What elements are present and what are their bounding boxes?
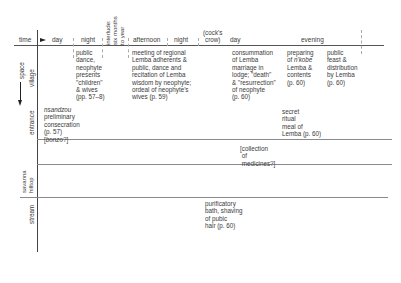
event-village-afternoon: meeting of regional Lemba adherents & pu… [132, 49, 191, 101]
event-village-day2: consummation of Lemba marriage in lodge;… [232, 49, 276, 101]
time-arrow-icon [40, 38, 46, 42]
col-header-day: day [52, 36, 62, 43]
col-header-interlude: interlude: six months to year [105, 16, 125, 45]
col-header-evening: evening [301, 36, 324, 43]
event-entrance-day: nsandzou preliminary consecration (p. 57… [44, 106, 80, 143]
row-label-savanna-hilltop: savanna hilltop [21, 170, 35, 193]
event-village-night: public dance, neophyte presents "childre… [76, 49, 105, 101]
col-divider [198, 38, 199, 46]
event-stream-day2: purificatory bath, shaving of pubic hair… [205, 200, 242, 230]
row-divider-entrance-hilltop [37, 164, 392, 165]
event-text-italic: nsandzou [44, 106, 80, 113]
event-village-evening-nkobe: preparing of n'kobe Lemba & contents (p.… [287, 49, 314, 86]
col-divider [361, 30, 362, 54]
event-text: preliminary consecration (p. 57) [44, 113, 80, 135]
col-divider [128, 38, 129, 58]
col-divider [73, 38, 74, 58]
time-axis-line [14, 45, 384, 46]
event-text: Lemba & contents (p. 60) [287, 64, 312, 86]
row-divider-hilltop-stream [20, 197, 388, 198]
col-header-afternoon: afternoon [133, 36, 160, 43]
event-hilltop-day2: [collection of medicines?] [240, 145, 275, 167]
row-divider-village-entrance [37, 139, 392, 140]
time-axis-label: time [19, 36, 31, 43]
nsandzou-term: nsandzou [44, 106, 71, 113]
event-text-italic: n'kobe [294, 56, 312, 63]
col-header-cocks-crow: (cock's crow) [203, 29, 222, 44]
event-text-bonzo: [bonzo?] [44, 136, 80, 143]
row-label-stream: stream [28, 205, 35, 224]
row-label-village: village [28, 69, 35, 87]
event-entrance-evening: secret ritual meal of Lemba (p. 60) [282, 108, 321, 138]
col-header-day-2: day [230, 36, 240, 43]
space-axis-line [37, 30, 38, 252]
event-village-evening-feast: public feast & distribution by Lemba (p.… [327, 49, 357, 86]
space-arrow-shaft [20, 82, 21, 102]
col-divider [167, 38, 168, 46]
space-arrow-icon [18, 100, 22, 106]
space-axis-label: space [18, 62, 25, 79]
row-label-entrance: entrance [28, 110, 35, 135]
col-header-night: night [81, 36, 95, 43]
col-header-night-2: night [174, 36, 188, 43]
